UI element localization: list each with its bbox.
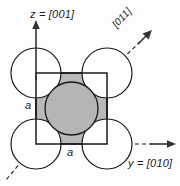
diagram-canvas: z = [001] y = [010] [011] a a xyxy=(0,0,180,186)
atom-face-center xyxy=(45,82,98,135)
axis-y-arrowhead xyxy=(167,140,176,148)
axis-diagonal-shaft xyxy=(138,36,146,44)
axis-label-z: z = [001] xyxy=(30,8,74,20)
dimension-label-a-bottom: a xyxy=(67,146,73,158)
axis-label-y: y = [010] xyxy=(128,157,172,169)
axis-z-arrowhead xyxy=(32,20,40,29)
dimension-label-a-left: a xyxy=(25,99,31,111)
